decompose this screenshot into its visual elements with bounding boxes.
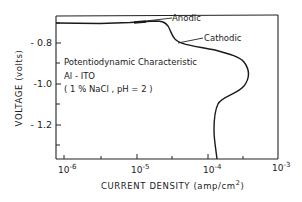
x-tick-labels: 10-6 10-5 10-4 10-3 xyxy=(58,161,290,175)
y-tick-label: -1.0 xyxy=(33,78,52,89)
cathodic-leader-line xyxy=(178,38,203,43)
chart-subtitle-conditions: ( 1 % NaCl , pH = 2 ) xyxy=(64,84,153,94)
chart-subtitle-material: Al - ITO xyxy=(64,71,95,81)
anodic-segment xyxy=(134,22,146,23)
x-tick-label: 10-4 xyxy=(203,163,222,175)
plot-annotation: Potentiodynamic Characteristic Al - ITO … xyxy=(64,57,197,94)
x-tick-label: 10-6 xyxy=(58,163,77,175)
x-axis-title: CURRENT DENSITY (amp/cm2) xyxy=(101,179,244,191)
anodic-label: Anodic xyxy=(172,13,201,23)
y-tick-label: - 1.2 xyxy=(30,119,52,130)
x-tick-label: 10-3 xyxy=(272,161,290,173)
chart: - 0.8 -1.0 - 1.2 10-6 10-5 10-4 10-3 CUR… xyxy=(0,0,302,202)
chart-title: Potentiodynamic Characteristic xyxy=(64,57,197,67)
y-axis-title: VOLTAGE (volts) xyxy=(14,50,24,127)
x-tick-label: 10-5 xyxy=(131,163,149,175)
y-tick-labels: - 0.8 -1.0 - 1.2 xyxy=(30,37,52,130)
y-axis-ticks xyxy=(56,23,61,145)
cathodic-label: Cathodic xyxy=(204,33,242,43)
y-tick-label: - 0.8 xyxy=(30,37,52,48)
